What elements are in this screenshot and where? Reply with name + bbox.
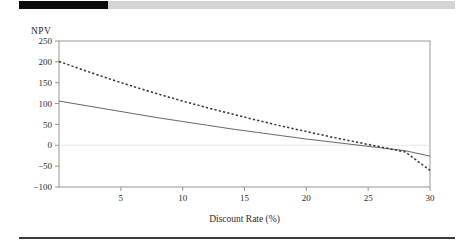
x-tick-label: 20 [302,193,312,203]
y-tick-group: −100−50050100150200250 [33,36,59,192]
y-tick-label: −100 [33,182,52,192]
x-axis-title: Discount Rate (%) [209,214,280,224]
x-tick-label: 25 [364,193,374,203]
bottom-rule [19,237,455,239]
x-tick-label: 10 [178,193,188,203]
y-tick-label: 100 [39,99,53,109]
x-tick-group: 51015202530 [119,187,435,203]
plot-frame [59,41,430,187]
x-tick-label: 5 [119,193,124,203]
y-axis-title: NPV [31,26,51,36]
x-tick-label: 30 [426,193,436,203]
y-tick-label: 200 [39,57,53,67]
y-tick-label: −50 [38,161,53,171]
x-tick-label: 15 [240,193,250,203]
figure-page: NPV −100−50050100150200250 51015202530 D… [0,0,463,247]
x-axis-title-wrap: Discount Rate (%) [0,214,463,224]
chart-figure: NPV −100−50050100150200250 51015202530 D… [0,12,463,234]
y-tick-label: 250 [39,36,53,46]
npv-line-chart: −100−50050100150200250 51015202530 [0,12,463,212]
y-tick-label: 0 [48,140,53,150]
y-tick-label: 150 [39,78,53,88]
y-tick-label: 50 [43,120,53,130]
header-bar-gray [108,1,455,9]
header-bar-black [19,1,108,9]
